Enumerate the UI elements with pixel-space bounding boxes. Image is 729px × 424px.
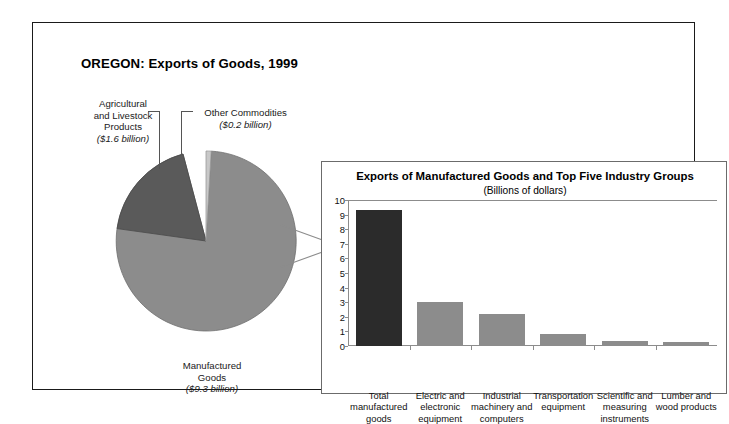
x-axis-category-label-line: measuring <box>594 401 656 412</box>
plot-frame <box>348 200 717 346</box>
pie-label-other-line1: Other Commodities <box>183 107 308 119</box>
pie-label-manufactured: Manufactured Goods ($9.3 billion) <box>137 360 287 395</box>
x-axis-category-label-line: machinery and <box>471 401 533 412</box>
x-axis-tick-mark <box>594 346 595 350</box>
pie-label-agricultural-line1: Agricultural <box>69 98 177 110</box>
x-axis-category-label: Electric andelectronicequipment <box>410 390 472 424</box>
x-axis-category-label: Lumber andwood products <box>656 390 718 413</box>
x-axis-tick-mark <box>410 346 411 350</box>
x-axis-category-label: Scientific andmeasuringinstruments <box>594 390 656 424</box>
pie-label-other-amount: ($0.2 billion) <box>183 119 308 131</box>
y-axis-tick-mark <box>345 215 349 216</box>
x-axis-tick-mark <box>656 346 657 350</box>
bar-1 <box>356 210 402 346</box>
x-axis-category-label-line: Transportation <box>533 390 595 401</box>
x-axis-category-label-line: equipment <box>533 401 595 412</box>
pie-label-manufactured-line2: Goods <box>137 372 287 384</box>
y-axis-tick-mark <box>345 288 349 289</box>
page-title: OREGON: Exports of Goods, 1999 <box>81 56 298 71</box>
x-axis-category-label-line: Industrial <box>471 390 533 401</box>
x-axis-category-label-line: manufactured <box>348 401 410 412</box>
x-axis-category-label-line: instruments <box>594 413 656 424</box>
inset-bar-chart-panel: Exports of Manufactured Goods and Top Fi… <box>321 161 727 394</box>
x-axis-category-label-line: Electric and <box>410 390 472 401</box>
leader-line-other-vertical <box>181 111 182 155</box>
pie-label-manufactured-line1: Manufactured <box>137 360 287 372</box>
y-axis-tick-mark <box>345 273 349 274</box>
x-axis-tick-mark <box>471 346 472 350</box>
y-axis-tick-label: 10 <box>335 195 345 206</box>
x-axis-category-label-line: computers <box>471 413 533 424</box>
plot-top-rule <box>348 200 717 201</box>
y-axis-tick-mark <box>345 331 349 332</box>
bar-3 <box>479 314 525 346</box>
x-axis-category-label-line: goods <box>348 413 410 424</box>
bar-5 <box>602 341 648 346</box>
bar-6 <box>663 342 709 346</box>
x-axis-category-label-line: Scientific and <box>594 390 656 401</box>
y-axis-tick-mark <box>345 346 349 347</box>
outer-frame: OREGON: Exports of Goods, 1999 Agricultu… <box>32 22 695 390</box>
x-axis-category-label: Industrialmachinery andcomputers <box>471 390 533 424</box>
pie-svg <box>115 150 297 332</box>
x-axis-category-label: Totalmanufacturedgoods <box>348 390 410 424</box>
pie-label-manufactured-amount: ($9.3 billion) <box>137 383 287 395</box>
y-axis-tick-mark <box>345 258 349 259</box>
y-axis-tick-mark <box>345 317 349 318</box>
y-axis-tick-mark <box>345 302 349 303</box>
pie-label-agricultural-line3: Products <box>69 121 177 133</box>
y-axis-tick-mark <box>345 229 349 230</box>
bar-2 <box>417 302 463 346</box>
pie-label-agricultural: Agricultural and Livestock Products ($1.… <box>69 98 177 144</box>
x-axis-tick-mark <box>533 346 534 350</box>
pie-slice-agricultural <box>117 154 206 241</box>
x-axis-category-label-line: Total <box>348 390 410 401</box>
inset-chart-subtitle: (Billions of dollars) <box>322 185 728 196</box>
y-axis-tick-mark <box>345 244 349 245</box>
pie-label-other: Other Commodities ($0.2 billion) <box>183 107 308 130</box>
x-axis-category-label-line: wood products <box>656 401 718 412</box>
x-axis-category-label: Transportationequipment <box>533 390 595 413</box>
inset-chart-title: Exports of Manufactured Goods and Top Fi… <box>322 170 728 182</box>
bar-4 <box>540 334 586 346</box>
pie-label-agricultural-amount: ($1.6 billion) <box>69 133 177 145</box>
pie-chart <box>115 150 297 332</box>
x-axis-category-label-line: electronic <box>410 401 472 412</box>
x-axis-category-label-line: Lumber and <box>656 390 718 401</box>
x-axis-category-label-line: equipment <box>410 413 472 424</box>
pie-label-agricultural-line2: and Livestock <box>69 110 177 122</box>
plot-area: 012345678910TotalmanufacturedgoodsElectr… <box>348 200 717 346</box>
